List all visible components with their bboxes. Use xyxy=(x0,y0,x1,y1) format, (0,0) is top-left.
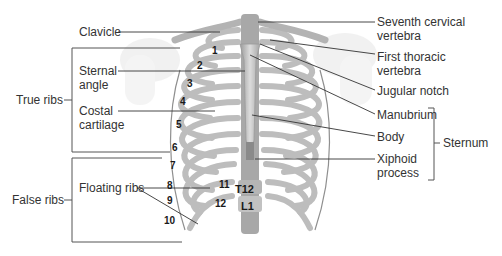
rib-number-5: 5 xyxy=(176,120,182,130)
rib-number-7: 7 xyxy=(170,161,176,171)
manubrium-label: Manubrium xyxy=(377,108,437,122)
rib-number-8: 8 xyxy=(167,181,173,191)
rib-number-4: 4 xyxy=(180,97,186,107)
seventh-cervical-label-line1: Seventh cervical xyxy=(377,15,465,29)
clavicle-label: Clavicle xyxy=(79,25,121,39)
ribs-left xyxy=(181,30,238,228)
thoracic-cage-diagram: Clavicle Sternal angle Costal cartilage … xyxy=(0,0,502,256)
t12-label: T12 xyxy=(235,184,254,194)
ribs-right xyxy=(262,30,319,228)
costal-cartilage-label-line1: Costal xyxy=(79,104,113,118)
first-thoracic-label-line1: First thoracic xyxy=(377,50,446,64)
xiphoid-process-shape xyxy=(246,142,254,160)
sternum-label: Sternum xyxy=(443,136,488,150)
floating-ribs-label: Floating ribs xyxy=(79,181,144,195)
rib-number-12: 12 xyxy=(215,199,226,209)
rib-number-6: 6 xyxy=(172,143,178,153)
costal-cartilage-label-line2: cartilage xyxy=(79,118,124,132)
body-label: Body xyxy=(377,130,404,144)
false-ribs-label: False ribs xyxy=(12,193,64,207)
jugular-notch-label: Jugular notch xyxy=(377,84,449,98)
true-ribs-label: True ribs xyxy=(16,93,63,107)
rib-number-3: 3 xyxy=(187,79,193,89)
xiphoid-process-label-line1: Xiphoid xyxy=(377,152,417,166)
sternal-angle-label-line2: angle xyxy=(79,78,108,92)
rib-cage-illustration xyxy=(0,0,502,256)
rib-number-1: 1 xyxy=(212,46,218,56)
rib-number-2: 2 xyxy=(197,61,203,71)
seventh-cervical-label-line2: vertebra xyxy=(377,29,421,43)
rib-number-10: 10 xyxy=(164,216,175,226)
rib-number-11: 11 xyxy=(219,180,230,190)
l1-label: L1 xyxy=(241,201,254,211)
rib-number-9: 9 xyxy=(167,196,173,206)
xiphoid-process-label-line2: process xyxy=(377,166,419,180)
sternal-angle-label-line1: Sternal xyxy=(79,64,117,78)
first-thoracic-label-line2: vertebra xyxy=(377,64,421,78)
